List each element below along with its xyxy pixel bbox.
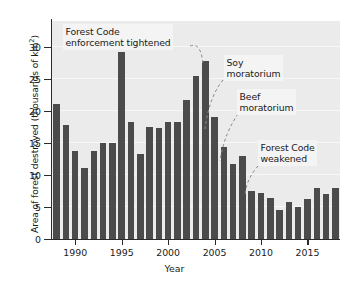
annotation-soy-moratorium: Soy moratorium [224, 55, 283, 81]
annotation-forest-code-enforcement-tightened: Forest Code enforcement tightened [63, 24, 173, 50]
leader-line-beef-moratorium [220, 114, 238, 161]
deforestation-bar-chart: Area of forest destroyed (thousands of k… [0, 0, 349, 289]
x-axis-title: Year [0, 263, 349, 274]
annotation-forest-code-weakened: Forest Code weakened [258, 140, 317, 166]
leader-line-soy-moratorium [205, 80, 223, 129]
leader-line-forest-code-weakened [245, 166, 258, 196]
leader-line-forest-code-enforcement-tightened [190, 45, 203, 66]
annotation-beef-moratorium: Beef moratorium [237, 89, 296, 115]
